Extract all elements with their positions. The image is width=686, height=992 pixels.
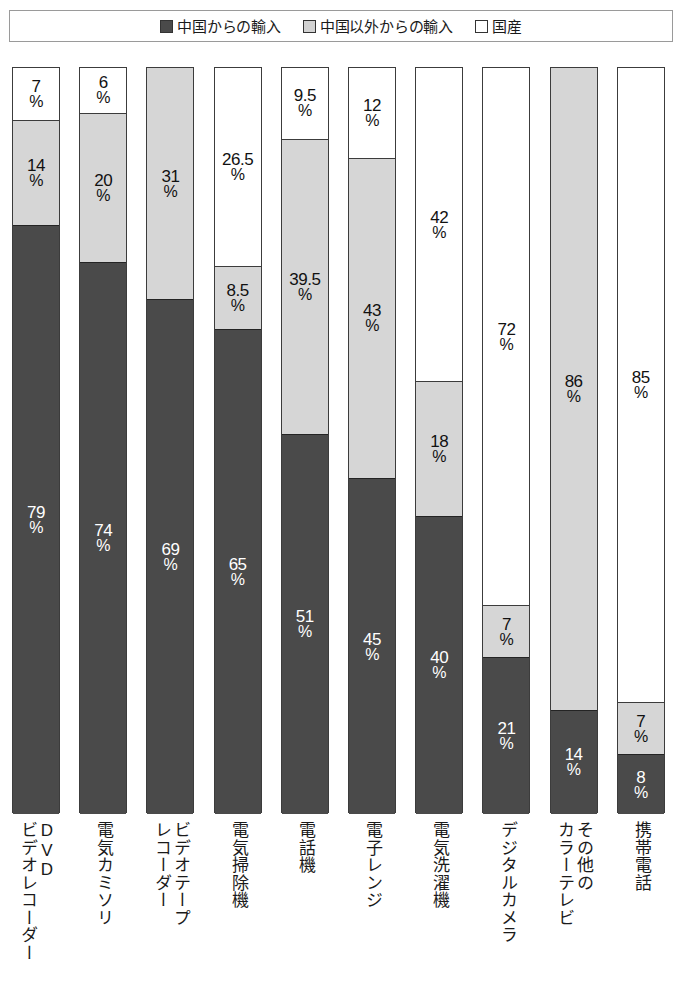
category-label-line: 電気洗濯機 [431,821,449,909]
chart-plot-area: 7%14%79%6%20%74%31%69%26.5%8.5%65%9.5%39… [0,67,686,813]
category-label-line: 電話機 [296,821,314,874]
segment-value-unit: % [227,298,249,314]
segment-other-imports[interactable]: 86% [551,68,597,710]
segment-value-unit: % [222,167,253,183]
segment-other-imports[interactable]: 20% [80,113,126,262]
category-label-line: デジタルカメラ [498,821,516,944]
segment-domestic[interactable]: 26.5% [215,68,261,266]
category-label: デジタルカメラ [477,821,535,989]
segment-china-imports[interactable]: 8% [618,754,664,814]
segment-value-label: 14% [565,746,583,778]
segment-value-label: 40% [430,649,448,681]
category-label-line: ビデオレコーダー [18,821,36,961]
segment-other-imports[interactable]: 7% [618,702,664,754]
stacked-bar[interactable]: 26.5%8.5%65% [214,67,262,813]
stacked-bar[interactable]: 12%43%45% [348,67,396,813]
segment-other-imports[interactable]: 18% [416,381,462,515]
segment-value-label: 45% [363,631,381,663]
segment-value-label: 8.5% [227,282,249,314]
segment-china-imports[interactable]: 45% [349,478,395,814]
category-label: 電気掃除機 [209,821,267,989]
segment-value-unit: % [289,287,320,303]
category-label: 電子レンジ [343,821,401,989]
segment-china-imports[interactable]: 65% [215,329,261,814]
segment-value-unit: % [634,785,648,801]
category-label-line: 携帯電話 [632,821,650,891]
segment-china-imports[interactable]: 69% [147,299,193,814]
category-label-line: その他の [575,821,593,891]
segment-value-unit: % [229,572,247,588]
bar-column: 7%14%79% [12,67,60,813]
segment-value-label: 43% [363,302,381,334]
stacked-bar[interactable]: 7%14%79% [12,67,60,813]
legend-item-1[interactable]: 中国以外からの輸入 [303,19,453,34]
segment-domestic[interactable]: 72% [483,68,529,605]
segment-domestic[interactable]: 6% [80,68,126,113]
stacked-bar[interactable]: 85%7%8% [617,67,665,813]
segment-value-label: 51% [296,608,314,640]
segment-domestic[interactable]: 7% [13,68,59,120]
stacked-bar[interactable]: 42%18%40% [415,67,463,813]
segment-other-imports[interactable]: 43% [349,158,395,479]
segment-domestic[interactable]: 85% [618,68,664,702]
stacked-bar[interactable]: 72%7%21% [482,67,530,813]
segment-domestic[interactable]: 9.5% [282,68,328,139]
segment-value-unit: % [161,557,179,573]
segment-value-label: 26.5% [222,151,253,183]
segment-other-imports[interactable]: 8.5% [215,266,261,329]
segment-other-imports[interactable]: 39.5% [282,139,328,434]
segment-value-label: 20% [94,172,112,204]
stacked-bar[interactable]: 31%69% [146,67,194,813]
gray-square-icon [303,20,316,33]
category-label-line: DVD [37,821,55,880]
legend-item-2[interactable]: 国産 [475,19,522,34]
stacked-bar[interactable]: 6%20%74% [79,67,127,813]
stacked-bar[interactable]: 9.5%39.5%51% [281,67,329,813]
segment-china-imports[interactable]: 74% [80,262,126,814]
category-label: 電話機 [276,821,334,989]
segment-value-unit: % [296,624,314,640]
bar-column: 86%14% [550,67,598,813]
segment-value-unit: % [29,94,43,110]
segment-value-unit: % [27,520,45,536]
bar-column: 12%43%45% [348,67,396,813]
segment-china-imports[interactable]: 21% [483,657,529,814]
segment-china-imports[interactable]: 51% [282,434,328,814]
segment-value-unit: % [363,113,381,129]
segment-domestic[interactable]: 12% [349,68,395,158]
category-label: DVDビデオレコーダー [7,821,65,989]
bar-column: 42%18%40% [415,67,463,813]
segment-value-label: 79% [27,504,45,536]
category-label-line: 電気掃除機 [229,821,247,909]
segment-value-label: 8% [634,769,648,801]
segment-china-imports[interactable]: 14% [551,710,597,814]
segment-value-unit: % [430,665,448,681]
segment-value-label: 18% [430,433,448,465]
segment-china-imports[interactable]: 40% [416,516,462,814]
segment-china-imports[interactable]: 79% [13,225,59,814]
segment-value-unit: % [430,225,448,241]
segment-other-imports[interactable]: 31% [147,68,193,299]
legend-item-0[interactable]: 中国からの輸入 [160,19,281,34]
segment-value-unit: % [632,385,650,401]
legend-item-label: 中国からの輸入 [177,19,281,34]
segment-other-imports[interactable]: 7% [483,605,529,657]
legend-item-label: 中国以外からの輸入 [320,19,453,34]
bar-column: 31%69% [146,67,194,813]
segment-value-unit: % [497,337,515,353]
stacked-bar[interactable]: 86%14% [550,67,598,813]
segment-value-label: 85% [632,369,650,401]
segment-value-label: 14% [27,157,45,189]
segment-value-label: 69% [161,541,179,573]
segment-value-label: 7% [29,78,43,110]
category-label-line: ビデオテープ [171,821,189,926]
segment-other-imports[interactable]: 14% [13,120,59,224]
segment-value-unit: % [94,188,112,204]
segment-value-unit: % [161,184,179,200]
white-square-icon [475,20,488,33]
segment-domestic[interactable]: 42% [416,68,462,381]
category-label-line: レコーダー [152,821,170,909]
category-label: ビデオテープレコーダー [141,821,199,989]
chart-legend: 中国からの輸入中国以外からの輸入国産 [9,10,673,42]
bar-column: 6%20%74% [79,67,127,813]
